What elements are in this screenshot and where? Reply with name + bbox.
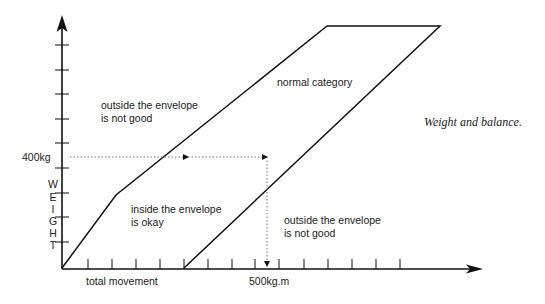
y-axis-letter: E: [47, 191, 59, 203]
y-axis-letter: G: [47, 215, 59, 227]
region-normal-category: normal category: [277, 76, 352, 89]
envelope-diagram: [0, 0, 545, 304]
region-inside: inside the envelope is okay: [131, 203, 222, 228]
figure-caption: Weight and balance.: [424, 115, 522, 130]
x-axis-label: total movement: [86, 275, 158, 288]
y-axis-letter: W: [47, 178, 59, 190]
y-axis-letter: I: [47, 203, 59, 215]
region-outside-upper: outside the envelope is not good: [101, 99, 198, 124]
y-axis-letter: H: [47, 227, 59, 239]
moment-marker-label: 500kg.m: [249, 275, 289, 288]
y-axis-letter: T: [47, 239, 59, 251]
x-axis: [62, 259, 483, 274]
weight-marker-label: 400kg: [22, 151, 51, 164]
region-outside-lower: outside the envelope is not good: [284, 214, 381, 239]
envelope-boundary: [62, 26, 440, 268]
